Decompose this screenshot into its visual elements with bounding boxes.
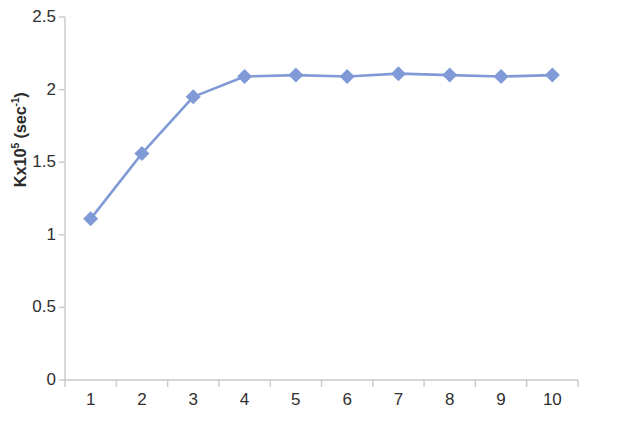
y-axis-ticks (59, 17, 65, 380)
line-chart: Kx105 (sec-1) 00.511.522.5 12345678910 (0, 0, 632, 434)
data-point-marker (237, 69, 252, 84)
data-point-marker (288, 68, 303, 83)
data-series-line (91, 74, 553, 219)
data-point-marker (391, 66, 406, 81)
data-point-marker (494, 69, 509, 84)
plot-area (0, 0, 632, 434)
data-point-marker (340, 69, 355, 84)
data-point-marker (545, 68, 560, 83)
data-series-markers (83, 66, 560, 226)
x-axis-ticks (65, 380, 578, 387)
data-point-marker (442, 68, 457, 83)
